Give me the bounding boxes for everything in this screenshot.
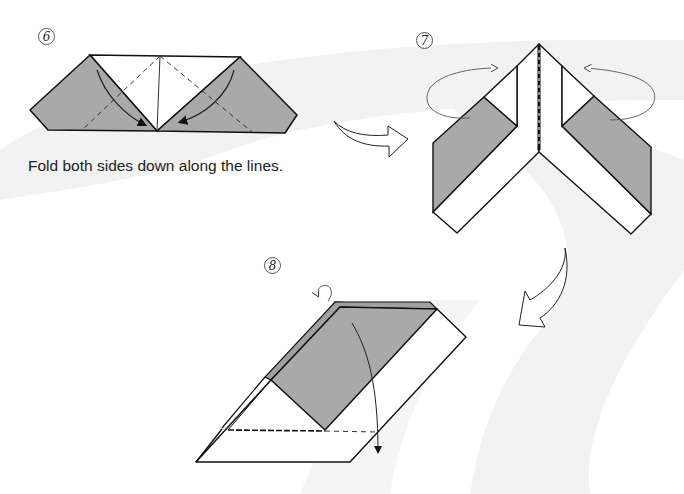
- step-number-6: 6: [38, 28, 55, 45]
- step-6-caption: Fold both sides down along the lines.: [28, 157, 283, 175]
- arrow-step7-to-step8: [519, 248, 567, 327]
- step-8-model: [196, 285, 466, 462]
- fold-illustrations: [0, 0, 684, 494]
- step-number-8: 8: [264, 257, 281, 274]
- step-6-model: [30, 55, 297, 133]
- step-number-7: 7: [416, 32, 433, 49]
- arrow-step6-to-step7: [334, 121, 408, 157]
- step-7-model: [427, 44, 655, 234]
- origami-diagram: 6 7 8 Fold both sides down along the lin…: [0, 0, 684, 494]
